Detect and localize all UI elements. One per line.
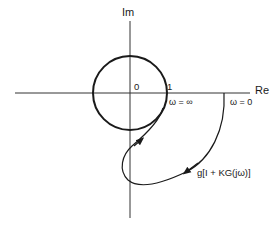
real-axis-label: Re [255,85,269,96]
omega-infinity-label: ω = ∞ [169,98,193,107]
imaginary-axis-label: Im [122,7,134,18]
curve-label: g[I + KG(jω)] [197,168,251,178]
nyquist-diagram [0,0,278,228]
omega-zero-label: ω = 0 [230,98,252,107]
unit-label: 1 [167,82,172,92]
origin-label: 0 [134,82,139,92]
